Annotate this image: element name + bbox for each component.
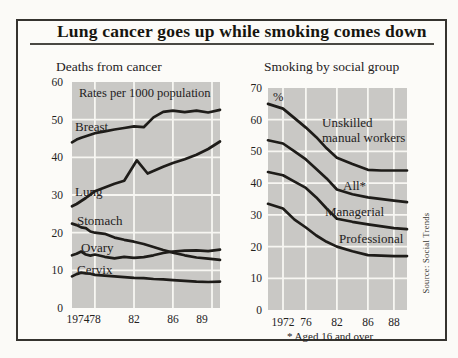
smoking-plot: 010203040506070197276828688%Unskilledman… (242, 50, 444, 336)
series-label: Unskilled (322, 115, 373, 130)
series-label: All* (343, 178, 366, 193)
x-tick-label: 1974 (66, 313, 89, 325)
unit-label: Rates per 1000 population (79, 86, 211, 100)
page-title: Lung cancer goes up while smoking comes … (57, 21, 427, 42)
y-tick-label: 20 (52, 227, 64, 239)
x-tick-label: 86 (167, 313, 179, 325)
x-tick-label: 82 (128, 313, 140, 325)
y-tick-label: 10 (52, 264, 64, 276)
series-label: Cervix (77, 262, 113, 277)
series-label: manual workers (322, 130, 405, 145)
y-tick-label: 50 (52, 114, 64, 126)
series-label: Breast (75, 119, 109, 134)
series-label: Professional (339, 231, 404, 246)
figure: Lung cancer goes up while smoking comes … (0, 0, 458, 358)
y-tick-label: 0 (57, 302, 63, 314)
unit-label: % (273, 90, 283, 104)
y-tick-label: 50 (251, 145, 263, 157)
series-label: Stomach (77, 213, 123, 228)
y-tick-label: 60 (52, 76, 64, 88)
y-tick-label: 20 (251, 241, 263, 253)
y-tick-label: 30 (251, 209, 263, 221)
y-tick-label: 60 (251, 114, 263, 126)
y-tick-label: 40 (251, 177, 263, 189)
x-tick-label: 88 (388, 316, 400, 328)
y-tick-label: 30 (52, 189, 64, 201)
cancer-deaths-plot: 0102030405060197478828689Rates per 1000 … (30, 50, 242, 340)
x-tick-label: 1972 (272, 316, 295, 328)
x-tick-label: 76 (300, 316, 312, 328)
y-tick-label: 10 (251, 272, 263, 284)
x-tick-label: 89 (196, 313, 208, 325)
source-credit: Source: Social Trends (421, 193, 433, 313)
title-divider (30, 43, 434, 45)
y-tick-label: 70 (251, 82, 263, 94)
footnote: * Aged 16 and over (250, 330, 410, 342)
x-tick-label: 82 (331, 316, 343, 328)
series-label: Managerial (325, 204, 385, 219)
x-tick-label: 86 (362, 316, 374, 328)
series-label: Ovary (81, 240, 114, 255)
series-label: Lung (75, 184, 103, 199)
y-tick-label: 0 (256, 304, 262, 316)
y-tick-label: 40 (52, 151, 64, 163)
x-tick-label: 78 (89, 313, 101, 325)
